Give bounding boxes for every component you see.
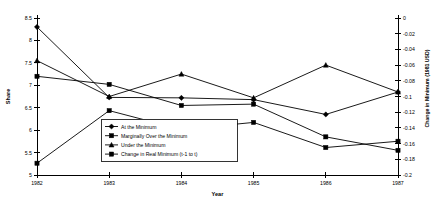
y-axis-left-title: Share — [5, 89, 11, 105]
data-point-marker — [107, 109, 111, 113]
y-axis-right-tick-label: -0.08 — [403, 78, 415, 84]
data-point-marker — [179, 103, 183, 107]
data-point-marker — [252, 120, 256, 124]
line-chart: 55.566.577.588.5Share0-0.02-0.04-0.06-0.… — [0, 0, 435, 202]
x-axis-title: Year — [212, 191, 225, 197]
y-axis-left-tick-label: 7.5 — [25, 60, 32, 66]
data-point-marker — [252, 102, 256, 106]
y-axis-right-tick-label: -0.04 — [403, 46, 415, 52]
y-axis-right-tick-label: -0.2 — [403, 172, 412, 178]
legend-label-1: Marginally Over the Minimum — [121, 133, 187, 139]
y-axis-left-tick-label: 7 — [29, 82, 32, 88]
data-point-marker — [35, 74, 39, 78]
y-axis-left-tick-label: 6.5 — [25, 105, 32, 111]
y-axis-right-tick-label: 0 — [403, 15, 406, 21]
y-axis-right-tick-label: -0.12 — [403, 109, 415, 115]
data-point-marker — [109, 152, 113, 156]
data-point-marker — [179, 72, 184, 77]
y-axis-left-tick-label: 6 — [29, 127, 32, 133]
x-axis-tick-label: 1982 — [31, 180, 43, 186]
data-point-marker — [109, 134, 113, 138]
data-point-marker — [179, 95, 184, 100]
legend-label-0: At the Minimum — [121, 124, 156, 130]
x-axis-tick-label: 1987 — [392, 180, 404, 186]
data-point-marker — [396, 139, 400, 143]
data-point-marker — [107, 82, 111, 86]
y-axis-left-tick-label: 8.5 — [25, 15, 32, 21]
data-point-marker — [324, 135, 328, 139]
x-axis-tick-label: 1983 — [103, 180, 115, 186]
y-axis-left-tick-label: 8 — [29, 37, 32, 43]
x-axis-tick-label: 1984 — [176, 180, 188, 186]
series-line-0 — [37, 27, 398, 114]
x-axis-tick-label: 1985 — [248, 180, 260, 186]
y-axis-right-tick-label: -0.16 — [403, 141, 415, 147]
y-axis-right-tick-label: -0.06 — [403, 62, 415, 68]
y-axis-right-tick-label: -0.1 — [403, 94, 412, 100]
y-axis-left-tick-label: 5 — [29, 172, 32, 178]
data-point-marker — [35, 58, 40, 63]
legend-label-2: Under the Minimum — [121, 142, 165, 148]
data-point-marker — [323, 63, 328, 68]
y-axis-right-tick-label: -0.14 — [403, 125, 415, 131]
legend-label-3: Change in Real Minimum (t-1 to t) — [121, 151, 198, 157]
data-point-marker — [396, 148, 400, 152]
x-axis-tick-label: 1986 — [320, 180, 332, 186]
y-axis-right-title: Change in Minimum (1981 USD) — [424, 49, 430, 127]
y-axis-right-tick-label: -0.02 — [403, 31, 415, 37]
y-axis-left-tick-label: 5.5 — [25, 150, 32, 156]
y-axis-right-tick-label: -0.18 — [403, 156, 415, 162]
data-point-marker — [35, 161, 39, 165]
chart-container: 55.566.577.588.5Share0-0.02-0.04-0.06-0.… — [0, 0, 435, 202]
data-point-marker — [323, 112, 328, 117]
data-point-marker — [324, 145, 328, 149]
